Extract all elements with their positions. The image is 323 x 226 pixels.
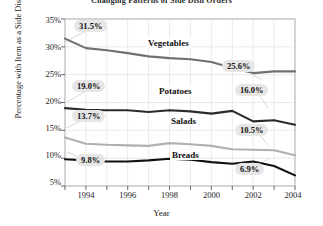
callout-breads-start: 9.8%: [76, 154, 105, 166]
callout-potatoes-start: 19.0%: [72, 80, 105, 92]
series-label-breads: Breads: [170, 150, 201, 160]
callout-vegetables-start: 31.5%: [74, 20, 107, 32]
series-label-salads: Salads: [169, 116, 198, 126]
x-tick-1998: 1998: [150, 190, 190, 200]
series-label-vegetables: Vegetables: [146, 38, 191, 48]
callout-vegetables-end: 25.6%: [222, 60, 255, 72]
x-tick-2000: 2000: [191, 190, 231, 200]
x-tick-1994: 1994: [66, 190, 106, 200]
callout-potatoes-end: 16.0%: [235, 84, 268, 96]
x-tick-1996: 1996: [108, 190, 148, 200]
callout-breads-end: 6.9%: [235, 163, 264, 175]
chart-container: Changing Patterns of Side Dish Orders Pe…: [0, 0, 323, 226]
callout-salads-end: 10.5%: [235, 124, 268, 136]
callout-salads-start: 13.7%: [72, 110, 105, 122]
x-tick-2002: 2002: [233, 190, 273, 200]
x-axis-title: Year: [0, 208, 323, 218]
series-label-potatoes: Potatoes: [157, 86, 194, 96]
x-tick-2004: 2004: [273, 190, 313, 200]
y-axis-ticks: [61, 19, 65, 186]
